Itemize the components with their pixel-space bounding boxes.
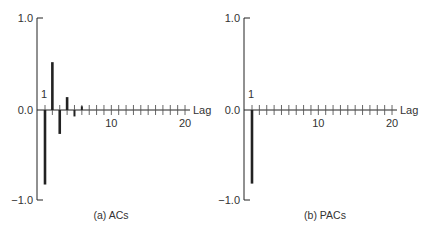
x-tick-label: 20	[179, 117, 191, 129]
y-tick-label: 1.0	[225, 12, 240, 24]
y-tick-label: 0.0	[225, 104, 240, 116]
chart-caption: (b) PACs	[304, 209, 346, 221]
pacf-chart: 1.00.0−1.011020Lag(b) PACs	[218, 12, 418, 221]
lag-1-annotation: 1	[41, 88, 47, 100]
y-tick-label: 0.0	[18, 104, 33, 116]
acf-chart: 1.00.0−1.011020Lag(a) ACs	[11, 12, 211, 221]
chart-caption: (a) ACs	[93, 209, 128, 221]
correlogram-figure: 1.00.0−1.011020Lag(a) ACs1.00.0−1.011020…	[0, 0, 430, 234]
y-tick-label: −1.0	[11, 194, 33, 206]
lag-1-annotation: 1	[248, 88, 254, 100]
x-tick-label: 10	[105, 117, 117, 129]
x-tick-label: 20	[386, 117, 398, 129]
y-tick-label: −1.0	[218, 194, 240, 206]
x-tick-label: 10	[312, 117, 324, 129]
y-tick-label: 1.0	[18, 12, 33, 24]
x-axis-label: Lag	[193, 104, 211, 116]
x-axis-label: Lag	[400, 104, 418, 116]
